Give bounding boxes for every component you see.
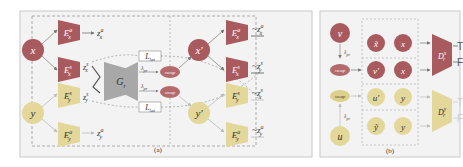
svg-text:Dyr: Dyr	[437, 106, 447, 118]
loss-lat-top: Llat	[139, 51, 161, 62]
svg-text:u': u'	[373, 93, 381, 103]
output-node-x-prime: x'	[188, 39, 210, 61]
svg-text:u: u	[338, 131, 343, 142]
panel-b: v λpr swap swap λpr u x̃ x	[320, 11, 463, 157]
node-v: v	[330, 23, 350, 43]
svg-text:swap: swap	[165, 90, 176, 95]
latent-zx-s: zsx	[82, 61, 88, 73]
dx-out-false: F	[457, 57, 463, 68]
svg-text:x: x	[30, 44, 36, 56]
input-node-y: y	[22, 102, 44, 124]
caption-a: (a)	[154, 146, 162, 154]
node-u: u	[330, 126, 350, 146]
svg-text:swap: swap	[165, 70, 176, 75]
swap-node-b-top: swap	[330, 64, 350, 76]
swap-node-b-bottom: swap	[330, 90, 350, 102]
output-node-y-prime: y'	[188, 102, 210, 124]
svg-text:swap: swap	[335, 68, 346, 73]
swap-node-bottom: swap	[160, 86, 180, 98]
diagram-canvas: x y Eax Esx Esy Eay zax	[0, 0, 463, 167]
svg-text:y': y'	[194, 107, 203, 119]
svg-text:x̃: x̃	[373, 39, 379, 49]
svg-text:x: x	[400, 66, 405, 76]
panel-a: x y Eax Esx Esy Eay zax	[20, 11, 312, 157]
loss-lat-bottom: Llat	[139, 102, 161, 113]
caption-b: (b)	[386, 147, 395, 155]
swap-node-top: swap	[160, 66, 180, 78]
svg-text:Dxr: Dxr	[437, 50, 447, 62]
generator-gr: Gr	[104, 62, 138, 101]
svg-text:y: y	[30, 107, 36, 119]
latent-zy-s: zsy	[82, 91, 88, 103]
svg-text:y: y	[400, 122, 405, 132]
dy-out-false: F	[457, 113, 463, 124]
svg-text:x': x'	[194, 44, 203, 56]
svg-text:v: v	[338, 28, 343, 39]
svg-text:y: y	[400, 93, 405, 103]
svg-text:swap: swap	[335, 94, 346, 99]
svg-text:x: x	[400, 39, 405, 49]
input-node-x: x	[22, 39, 44, 61]
dy-out-true: T	[457, 97, 463, 108]
dx-out-true: T	[457, 41, 463, 52]
